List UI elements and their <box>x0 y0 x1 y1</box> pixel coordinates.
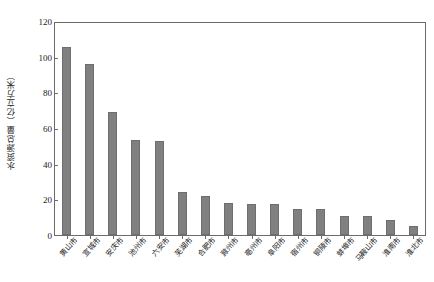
x-tick-label: 宿州市 <box>290 237 310 258</box>
bar[interactable] <box>131 140 140 235</box>
y-tick-label: 60 <box>12 125 52 134</box>
x-tick-label: 蚌埠市 <box>336 237 356 258</box>
x-tick-label: 铜陵市 <box>313 237 333 258</box>
y-axis-title-text: 水资源总量（亿立方米） <box>8 71 17 170</box>
x-tick-label: 马鞍山市 <box>354 237 378 263</box>
y-tick-label: 100 <box>12 53 52 62</box>
x-tick-mark <box>413 236 414 239</box>
x-tick-label: 芜湖市 <box>174 237 194 258</box>
bar-slot <box>101 23 124 235</box>
x-tick-mark <box>275 236 276 239</box>
x-tick-mark <box>344 236 345 239</box>
x-tick-label: 阜阳市 <box>267 237 287 258</box>
bar-slot <box>55 23 78 235</box>
bar[interactable] <box>386 220 395 235</box>
x-tick-label: 黄山市 <box>59 237 79 258</box>
y-tick-label: 20 <box>12 196 52 205</box>
x-tick-mark <box>228 236 229 239</box>
x-tick-label: 淮北市 <box>405 237 425 258</box>
bars-group <box>55 23 425 235</box>
x-tick-mark <box>159 236 160 239</box>
bar-chart: 水资源总量（亿立方米） 020406080100120 黄山市宣城市安庆市池州市… <box>0 0 434 282</box>
bar-slot <box>309 23 332 235</box>
x-tick-mark <box>367 236 368 239</box>
y-tick-label: 120 <box>12 18 52 27</box>
x-tick-mark <box>67 236 68 239</box>
x-tick-mark <box>90 236 91 239</box>
bar[interactable] <box>62 47 71 235</box>
bar-slot <box>356 23 379 235</box>
bar[interactable] <box>409 226 418 235</box>
bar-slot <box>217 23 240 235</box>
bar-slot <box>402 23 425 235</box>
bar[interactable] <box>270 204 279 235</box>
x-tick-label: 合肥市 <box>197 237 217 258</box>
bar-slot <box>263 23 286 235</box>
bar-slot <box>240 23 263 235</box>
bar[interactable] <box>363 216 372 235</box>
bar[interactable] <box>155 141 164 235</box>
x-tick-mark <box>390 236 391 239</box>
bar[interactable] <box>293 209 302 236</box>
x-tick-label: 亳州市 <box>244 237 264 258</box>
y-tick-label: 0 <box>12 232 52 241</box>
x-tick-mark <box>136 236 137 239</box>
y-tick-label: 80 <box>12 89 52 98</box>
bar[interactable] <box>247 204 256 235</box>
bar-slot <box>333 23 356 235</box>
bar[interactable] <box>85 64 94 235</box>
x-tick-mark <box>321 236 322 239</box>
x-tick-mark <box>205 236 206 239</box>
bar-slot <box>379 23 402 235</box>
bar[interactable] <box>316 209 325 235</box>
bar[interactable] <box>178 192 187 235</box>
bar-slot <box>148 23 171 235</box>
bar[interactable] <box>224 203 233 235</box>
x-tick-mark <box>182 236 183 239</box>
y-tick-label: 40 <box>12 160 52 169</box>
x-tick-label: 宣城市 <box>82 237 102 258</box>
x-tick-label: 安庆市 <box>105 237 125 258</box>
bar[interactable] <box>340 216 349 235</box>
bar[interactable] <box>201 196 210 235</box>
bar-slot <box>124 23 147 235</box>
bar-slot <box>194 23 217 235</box>
bar-slot <box>78 23 101 235</box>
x-tick-mark <box>252 236 253 239</box>
x-tick-mark <box>113 236 114 239</box>
x-tick-mark <box>298 236 299 239</box>
x-tick-label: 池州市 <box>128 237 148 258</box>
bar[interactable] <box>108 112 117 235</box>
x-tick-label: 淮南市 <box>382 237 402 258</box>
bar-slot <box>171 23 194 235</box>
x-axis-labels: 黄山市宣城市安庆市池州市六安市芜湖市合肥市滁州市亳州市阜阳市宿州市铜陵市蚌埠市马… <box>55 237 425 282</box>
bar-slot <box>286 23 309 235</box>
x-tick-label: 六安市 <box>151 237 171 258</box>
x-tick-label: 滁州市 <box>220 237 240 258</box>
